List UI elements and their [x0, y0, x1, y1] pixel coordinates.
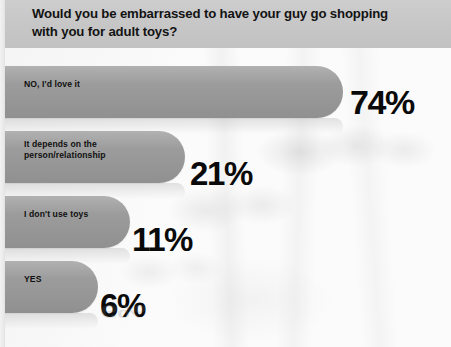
bar-track	[5, 261, 98, 313]
bar-value-label: 74%	[350, 86, 414, 119]
bar-reflection	[5, 313, 98, 330]
bar-row: NO, I'd love it 74%	[0, 66, 451, 118]
bar-gloss	[5, 261, 98, 279]
bar-row: I don't use toys 11%	[0, 196, 451, 248]
bar-category-label: It depends on the person/relationship	[24, 139, 106, 161]
bar-row: YES 6%	[0, 261, 451, 313]
bar-track	[5, 66, 343, 118]
bar-category-label: YES	[24, 274, 42, 285]
poll-infographic: Would you be embarrassed to have your gu…	[0, 0, 451, 347]
bar-value-label: 21%	[190, 157, 252, 190]
bar-chart-area: NO, I'd love it 74% It depends on the pe…	[0, 0, 451, 347]
bar-row: It depends on the person/relationship 21…	[0, 131, 451, 183]
bar-value-label: 11%	[132, 223, 192, 256]
bar-category-label: I don't use toys	[24, 209, 88, 220]
bar-value-label: 6%	[100, 289, 145, 322]
bar-category-label: NO, I'd love it	[24, 79, 80, 90]
bar-track	[5, 196, 130, 248]
